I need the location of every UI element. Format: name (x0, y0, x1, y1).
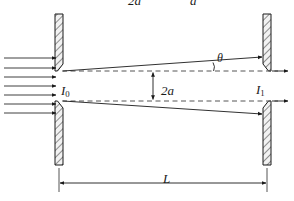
label-top-cropped-halfwidth: a (190, 0, 197, 7)
left-barrier-upper (55, 14, 63, 71)
label-output-intensity-subscript: 1 (260, 88, 264, 98)
right-barrier-lower (263, 101, 271, 165)
axis-exit-arrows (272, 71, 288, 101)
left-barrier-lower (55, 101, 63, 165)
label-input-intensity: I0 (61, 84, 70, 97)
label-input-intensity-subscript: 0 (65, 89, 69, 99)
figure-canvas (0, 0, 294, 201)
incoming-ray-bundle (4, 58, 56, 113)
right-barrier-upper (263, 14, 271, 71)
label-output-intensity: I1 (256, 83, 265, 96)
label-separation-length: L (163, 172, 170, 185)
optics-divergence-figure: I0 I1 2a θ L 2a a (0, 0, 294, 201)
upper-divergent-ray (63, 57, 262, 71)
theta-angle-arc (213, 63, 214, 72)
label-divergence-angle: θ (217, 52, 223, 64)
lower-divergent-ray (63, 101, 262, 114)
label-aperture-width: 2a (161, 84, 174, 97)
label-top-cropped-aperture: 2a (128, 0, 141, 7)
